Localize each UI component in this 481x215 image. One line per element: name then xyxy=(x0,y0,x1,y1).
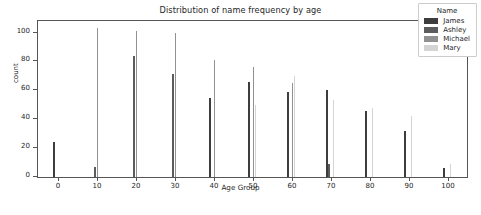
legend-item-james[interactable]: James xyxy=(424,17,470,25)
chart-title: Distribution of name frequency by age xyxy=(0,5,481,15)
x-tick: 20 xyxy=(136,177,137,181)
bars-layer xyxy=(38,21,467,177)
x-axis-label: Age Group xyxy=(0,183,481,192)
x-tick: 100 xyxy=(448,177,449,181)
legend-swatch xyxy=(424,27,438,33)
x-tick: 80 xyxy=(370,177,371,181)
y-tick-label: 0 xyxy=(26,171,30,179)
bar xyxy=(328,164,330,177)
legend-title: Name xyxy=(424,7,470,15)
legend-swatch xyxy=(424,18,438,24)
legend-swatch xyxy=(424,45,438,51)
bar xyxy=(365,111,367,177)
x-tick: 50 xyxy=(253,177,254,181)
x-tick: 10 xyxy=(97,177,98,181)
legend-item-ashley[interactable]: Ashley xyxy=(424,26,470,34)
y-tick-label: 80 xyxy=(21,55,30,63)
bar xyxy=(287,92,289,177)
bar xyxy=(450,164,452,177)
bar xyxy=(97,28,99,177)
bar xyxy=(443,168,445,177)
bar xyxy=(248,82,250,177)
legend-label: Michael xyxy=(443,35,470,43)
bar xyxy=(209,98,211,177)
x-tick: 30 xyxy=(175,177,176,181)
y-tick-label: 40 xyxy=(21,113,30,121)
bar xyxy=(404,131,406,177)
bar xyxy=(175,33,177,177)
x-tick: 60 xyxy=(292,177,293,181)
x-tick: 70 xyxy=(331,177,332,181)
legend-label: Mary xyxy=(443,44,460,52)
bar xyxy=(214,60,216,177)
legend-swatch xyxy=(424,36,438,42)
x-tick: 90 xyxy=(409,177,410,181)
plot-area: count 020406080100 010203040506070809010… xyxy=(37,20,468,178)
legend-label: Ashley xyxy=(443,26,466,34)
legend: Name JamesAshleyMichaelMary xyxy=(418,3,477,57)
x-tick: 0 xyxy=(58,177,59,181)
x-tick: 40 xyxy=(214,177,215,181)
y-tick-label: 20 xyxy=(21,142,30,150)
legend-label: James xyxy=(443,17,464,25)
y-axis-label: count xyxy=(12,63,20,83)
bar xyxy=(333,100,335,177)
y-tick-label: 100 xyxy=(17,27,30,35)
bar xyxy=(294,76,296,177)
bar xyxy=(53,142,55,177)
y-tick-label: 60 xyxy=(21,84,30,92)
legend-item-michael[interactable]: Michael xyxy=(424,35,470,43)
legend-rows: JamesAshleyMichaelMary xyxy=(424,17,470,52)
chart-figure: Distribution of name frequency by age co… xyxy=(0,0,481,215)
bar xyxy=(255,105,257,177)
bar xyxy=(136,31,138,177)
legend-item-mary[interactable]: Mary xyxy=(424,44,470,52)
bar xyxy=(411,116,413,177)
bar xyxy=(372,108,374,177)
